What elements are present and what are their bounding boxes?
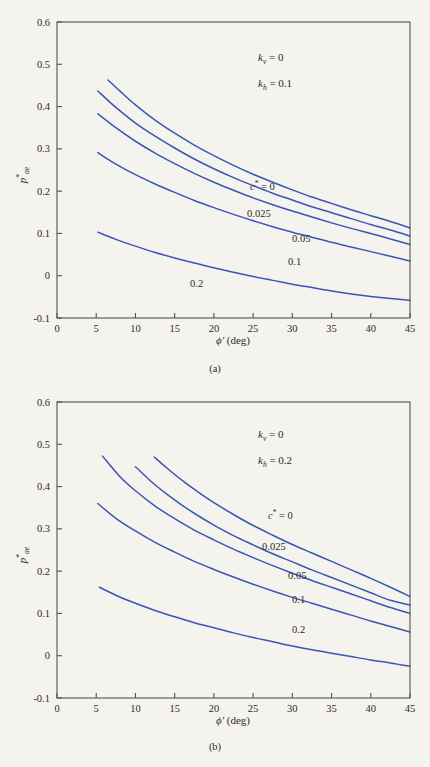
y-axis-tick-labels-b: -0.100.10.20.30.40.50.6: [33, 397, 50, 704]
data-curve: [154, 457, 410, 597]
curve-label-c0025-b: 0.025: [262, 541, 286, 552]
x-axis-title-b: ϕ′ (deg): [216, 714, 250, 727]
x-tick-label: 5: [94, 323, 99, 334]
y-axis-title-b: p*ae: [15, 546, 31, 564]
y-tick-label: 0.5: [37, 439, 50, 450]
curve-label-c01-a: 0.1: [288, 256, 301, 267]
y-axis-tick-labels-a: -0.100.10.20.30.40.50.6: [33, 17, 50, 324]
figure-seismic-active-earth-pressure: 051015202530354045 -0.100.10.20.30.40.50…: [0, 0, 430, 767]
plot-svg-b: 051015202530354045 -0.100.10.20.30.40.50…: [0, 380, 430, 763]
curve-label-c005-b: 0.05: [288, 570, 306, 581]
y-tick-label: 0.5: [37, 59, 50, 70]
x-axis-ticks-b: [57, 693, 410, 698]
x-tick-label: 10: [130, 323, 141, 334]
y-tick-label: 0: [45, 270, 50, 281]
y-tick-label: -0.1: [33, 313, 50, 324]
x-tick-label: 45: [405, 323, 416, 334]
x-tick-label: 0: [54, 323, 59, 334]
curve-label-c02-a: 0.2: [190, 278, 203, 289]
y-tick-label: 0.2: [37, 566, 50, 577]
x-tick-label: 15: [169, 703, 180, 714]
data-curve: [98, 153, 410, 261]
data-curve: [99, 587, 410, 666]
y-tick-label: 0.3: [37, 523, 50, 534]
x-tick-label: 25: [248, 703, 259, 714]
x-tick-label: 25: [248, 323, 259, 334]
x-tick-label: 45: [405, 703, 416, 714]
y-tick-label: 0.6: [37, 397, 50, 408]
x-axis-tick-labels-b: 051015202530354045: [54, 703, 415, 714]
plot-frame-b: [57, 402, 410, 698]
x-tick-label: 0: [54, 703, 59, 714]
y-tick-label: -0.1: [33, 693, 50, 704]
y-tick-label: 0.1: [37, 608, 50, 619]
x-tick-label: 35: [326, 703, 337, 714]
x-tick-label: 10: [130, 703, 141, 714]
x-tick-label: 40: [366, 323, 377, 334]
x-tick-label: 20: [209, 323, 220, 334]
y-tick-label: 0.3: [37, 143, 50, 154]
data-curve: [108, 80, 410, 228]
x-tick-label: 15: [169, 323, 180, 334]
y-tick-label: 0.4: [37, 101, 51, 112]
annotation-kv-b: kv = 0: [258, 428, 284, 443]
x-tick-label: 20: [209, 703, 220, 714]
x-tick-label: 35: [326, 323, 337, 334]
chart-panel-b: 051015202530354045 -0.100.10.20.30.40.50…: [0, 380, 430, 763]
curve-label-c0025-a: 0.025: [247, 208, 271, 219]
y-axis-ticks-a: [57, 22, 62, 318]
annotation-kv-a: kv = 0: [258, 51, 284, 66]
y-axis-title-a: p*ae: [15, 166, 31, 184]
plot-svg-a: 051015202530354045 -0.100.10.20.30.40.50…: [0, 0, 430, 383]
panel-subcaption-a: (a): [209, 363, 221, 375]
x-tick-label: 40: [366, 703, 377, 714]
y-tick-label: 0.1: [37, 228, 50, 239]
x-tick-label: 30: [287, 323, 298, 334]
annotation-kh-b: kh = 0.2: [258, 454, 292, 469]
panel-subcaption-b: (b): [209, 741, 222, 753]
y-tick-label: 0.4: [37, 481, 51, 492]
annotation-kh-a: kh = 0.1: [258, 77, 292, 92]
curve-label-c01-b: 0.1: [292, 594, 305, 605]
x-tick-label: 5: [94, 703, 99, 714]
y-tick-label: 0.6: [37, 17, 50, 28]
data-curve: [98, 232, 410, 300]
curve-label-c005-a: 0.05: [292, 233, 310, 244]
curve-group-b: [98, 456, 410, 666]
x-axis-title-a: ϕ′ (deg): [216, 334, 250, 347]
chart-panel-a: 051015202530354045 -0.100.10.20.30.40.50…: [0, 0, 430, 383]
data-curve: [98, 503, 410, 632]
y-axis-ticks-b: [57, 402, 62, 698]
curve-label-c0-b: c* = 0: [268, 508, 293, 521]
x-axis-ticks-a: [57, 313, 410, 318]
curve-label-c0-a: c* = 0: [250, 179, 275, 192]
y-tick-label: 0: [45, 650, 50, 661]
curve-label-c02-b: 0.2: [292, 624, 305, 635]
y-tick-label: 0.2: [37, 186, 50, 197]
x-axis-tick-labels-a: 051015202530354045: [54, 323, 415, 334]
x-tick-label: 30: [287, 703, 298, 714]
plot-frame-a: [57, 22, 410, 318]
